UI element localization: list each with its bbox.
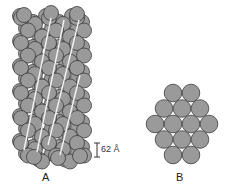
subunit-sphere bbox=[182, 84, 200, 102]
subunit-sphere bbox=[70, 7, 85, 22]
subunit-sphere bbox=[191, 100, 209, 118]
panel-a-filament bbox=[13, 6, 92, 170]
subunit-sphere bbox=[182, 115, 200, 133]
subunit-sphere bbox=[173, 100, 191, 118]
subunit-sphere bbox=[191, 131, 209, 149]
subunit-sphere bbox=[155, 100, 173, 118]
figure-canvas bbox=[0, 0, 231, 194]
subunit-sphere bbox=[51, 151, 66, 166]
subunit-sphere bbox=[173, 131, 191, 149]
subunit-sphere bbox=[146, 115, 164, 133]
panel-b-label: B bbox=[176, 171, 183, 183]
subunit-sphere bbox=[200, 115, 218, 133]
subunit-sphere bbox=[164, 84, 182, 102]
subunit-sphere bbox=[164, 146, 182, 164]
panel-a-label: A bbox=[42, 171, 49, 183]
subunit-sphere bbox=[182, 146, 200, 164]
subunit-sphere bbox=[155, 131, 173, 149]
subunit-sphere bbox=[17, 8, 32, 23]
scale-bar bbox=[94, 143, 100, 157]
subunit-sphere bbox=[164, 115, 182, 133]
subunit-sphere bbox=[27, 150, 42, 165]
panel-b-cross-section bbox=[146, 84, 218, 164]
scale-bar-label: 62 Å bbox=[101, 144, 120, 154]
subunit-sphere bbox=[73, 149, 88, 164]
